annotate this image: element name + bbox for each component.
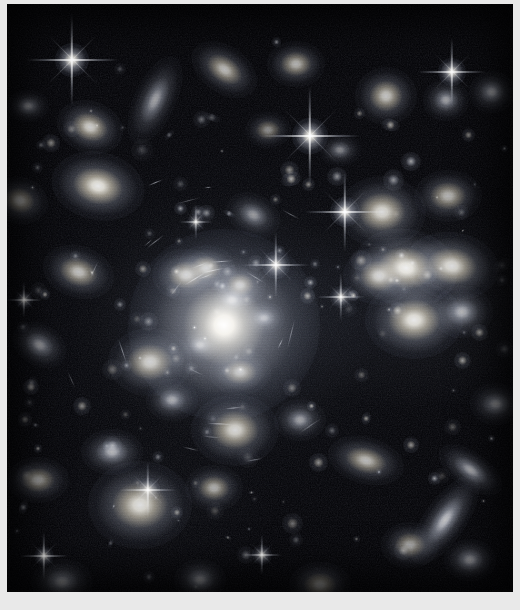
image-viewport: Galaxy Cluster Deep Field: [0, 0, 520, 610]
scanline-texture: [7, 4, 513, 592]
astronomy-image-plate: [7, 4, 513, 592]
